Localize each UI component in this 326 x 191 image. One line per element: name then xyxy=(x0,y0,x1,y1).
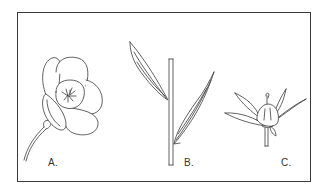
panel-label-b: B. xyxy=(184,157,194,168)
panel-label-c: C. xyxy=(281,157,292,168)
flower-a-illustration xyxy=(24,57,102,161)
leafy-stem-b-illustration xyxy=(130,42,214,165)
panel-label-a: A. xyxy=(48,157,58,168)
bud-c-illustration xyxy=(225,89,306,146)
